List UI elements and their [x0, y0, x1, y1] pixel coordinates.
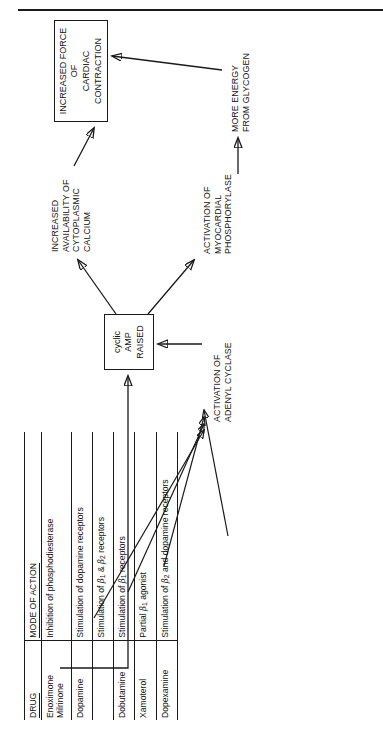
node-myocardial-phosphorylase: ACTIVATION OF MYOCARDIAL PHOSPHORYLASE	[202, 142, 234, 254]
cell-drug: Dobutamine	[113, 640, 134, 720]
calcium-line: CYTOPLASMIC	[71, 142, 82, 252]
mode-text-pre: Stimulation of	[117, 583, 127, 637]
node-increased-cardiac-force: INCREASED FORCE OF CARDIAC CONTRACTION	[54, 20, 108, 122]
mode-text-pre: Stimulation of	[96, 583, 106, 637]
beta-subscript: 2	[163, 574, 170, 578]
glycogen-line: MORE ENERGY	[230, 46, 241, 132]
table-header-row: DRUG MODE OF ACTION	[25, 432, 42, 720]
force-line: INCREASED FORCE OF	[58, 21, 81, 121]
cell-mode: Stimulation of β2 and dopamine receptors	[156, 432, 177, 640]
table-row: Enoximone Milrinone Inhibition of phosph…	[42, 432, 72, 720]
mode-text-pre: Stimulation of	[160, 583, 170, 637]
mode-text-pre: Partial	[138, 611, 148, 638]
node-adenyl-cyclase: ACTIVATION OF ADENYL CYCLASE	[212, 314, 233, 422]
node-cytoplasmic-calcium: INCREASED AVAILABILITY OF CYTOPLASMIC CA…	[50, 142, 93, 252]
phosphorylase-line: MYOCARDIAL	[213, 142, 224, 254]
drug-name-line: Dobutamine	[117, 647, 127, 718]
node-cyclic-amp-raised: cyclic AMP RAISED	[104, 314, 154, 370]
mode-text-post: receptors	[96, 517, 106, 555]
glycogen-line: FROM GLYCOGEN	[241, 46, 252, 132]
figure-stage: DRUG MODE OF ACTION Enoximone Milrinone …	[16, 10, 368, 722]
cell-drug: Xamoterol	[135, 640, 156, 720]
adenyl-line: ACTIVATION OF	[212, 314, 223, 422]
cell-drug: Enoximone Milrinone	[42, 640, 72, 720]
table-row: Xamoterol Partial β1 agonist	[135, 432, 156, 720]
mode-text-post: receptors	[117, 536, 127, 574]
cell-drug: Dopamine	[72, 640, 92, 720]
beta-symbol: β	[96, 578, 106, 583]
drug-mode-table: DRUG MODE OF ACTION Enoximone Milrinone …	[24, 432, 324, 720]
drug-name-line: Dopexamine	[160, 647, 170, 718]
phosphorylase-line: PHOSPHORYLASE	[223, 142, 234, 254]
beta-symbol: β	[96, 559, 106, 564]
drug-name-line: Milrinone	[55, 647, 65, 718]
mode-text: Inhibition of phosphodiesterase	[45, 519, 55, 638]
header-cell-mode: MODE OF ACTION	[25, 432, 42, 640]
force-line: CARDIAC CONTRACTION	[81, 21, 104, 121]
drug-name-line: Enoximone	[45, 647, 55, 718]
mode-text: Stimulation of dopamine receptors	[75, 507, 85, 637]
header-mode-label: MODE OF ACTION	[28, 563, 40, 637]
mode-text-mid: &	[96, 564, 106, 575]
cyclic-amp-line: AMP	[123, 325, 134, 359]
table-row: Dopexamine Stimulation of β2 and dopamin…	[156, 432, 177, 720]
beta-subscript: 2	[99, 555, 106, 559]
calcium-line: AVAILABILITY OF	[61, 142, 72, 252]
drug-name-line: Dopamine	[75, 647, 85, 718]
table-row: Dobutamine Stimulation of β1 receptors	[113, 432, 134, 720]
cell-mode: Stimulation of β1 & β2 receptors	[92, 432, 113, 640]
beta-symbol: β	[117, 578, 127, 583]
mode-text-post: and dopamine receptors	[160, 479, 170, 574]
calcium-line: INCREASED	[50, 142, 61, 252]
adenyl-line: ADENYL CYCLASE	[223, 314, 234, 422]
calcium-line: CALCIUM	[82, 142, 93, 252]
beta-symbol: β	[160, 578, 170, 583]
beta-subscript: 1	[120, 574, 127, 578]
cell-drug	[92, 640, 113, 720]
header-cell-drug: DRUG	[25, 640, 42, 720]
beta-symbol: β	[138, 606, 148, 611]
cell-mode: Inhibition of phosphodiesterase	[42, 432, 72, 640]
beta-subscript: 1	[142, 602, 149, 606]
cyclic-amp-line: cyclic	[112, 325, 123, 359]
table-row: Stimulation of β1 & β2 receptors	[92, 432, 113, 720]
mode-text-post: agonist	[138, 572, 148, 602]
cell-mode: Stimulation of dopamine receptors	[72, 432, 92, 640]
cell-mode: Partial β1 agonist	[135, 432, 156, 640]
header-drug-label: DRUG	[28, 693, 40, 718]
cell-mode: Stimulation of β1 receptors	[113, 432, 134, 640]
phosphorylase-line: ACTIVATION OF	[202, 142, 213, 254]
drug-name-line: Xamoterol	[138, 647, 148, 718]
cyclic-amp-line: RAISED	[135, 325, 146, 359]
cell-drug: Dopexamine	[156, 640, 177, 720]
node-more-energy-glycogen: MORE ENERGY FROM GLYCOGEN	[230, 46, 251, 132]
table-row: Dopamine Stimulation of dopamine recepto…	[72, 432, 92, 720]
beta-subscript: 1	[99, 574, 106, 578]
